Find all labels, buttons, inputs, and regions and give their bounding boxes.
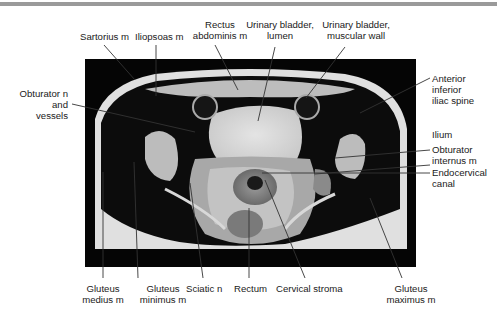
- label-gluteus-minimus: Gluteus minimus m: [134, 283, 192, 305]
- label-sciatic-nerve: Sciatic n: [186, 283, 222, 294]
- label-endocervical-canal: Endocervical canal: [432, 167, 487, 189]
- label-obturator-internus: Obturator internus m: [432, 144, 477, 166]
- label-gluteus-maximus: Gluteus maximus m: [382, 283, 440, 305]
- label-bladder-lumen: Urinary bladder, lumen: [240, 19, 320, 41]
- label-cervical-stroma: Cervical stroma: [276, 283, 343, 294]
- label-sartorius: Sartorius m: [80, 31, 129, 42]
- label-obturator-nerve: Obturator n and vessels: [10, 88, 68, 121]
- label-aiis: Anterior inferior iliac spine: [432, 73, 474, 106]
- label-iliopsoas: Iliopsoas m: [135, 31, 184, 42]
- leader-lines: [0, 0, 501, 321]
- label-gluteus-medius: Gluteus medius m: [78, 283, 128, 305]
- label-bladder-wall: Urinary bladder, muscular wall: [312, 19, 400, 41]
- label-rectum: Rectum: [234, 283, 267, 294]
- label-ilium: Ilium: [432, 129, 452, 140]
